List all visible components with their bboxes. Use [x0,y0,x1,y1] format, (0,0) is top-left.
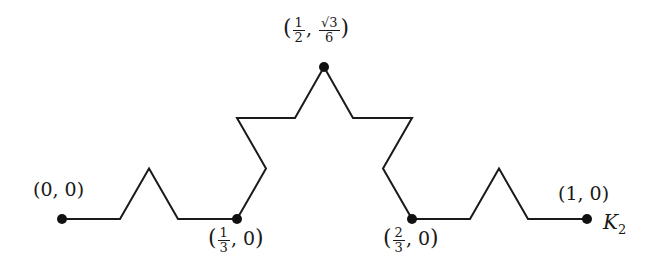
coord-x: 0 [40,178,52,200]
paren-open: ( [208,225,217,250]
curve-label-k2: K2 [603,212,626,236]
paren-close: ) [341,15,350,40]
fraction-x: 23 [393,226,405,254]
paren-close: ) [430,225,439,250]
paren-close: ) [77,178,84,200]
label-point-peak: (12, √36) [283,16,349,44]
coord-y: 0 [590,182,602,204]
koch-curve-diagram: (0, 0) (13, 0) (12, √36) (23, 0) (1, 0) … [0,0,656,268]
point-one-third-0 [232,214,242,224]
coord-y: 0 [65,178,77,200]
numerator: √3 [319,16,340,31]
point-0-0 [57,214,67,224]
label-point-two-thirds-0: (23, 0) [383,226,439,254]
separator: , [231,227,243,249]
label-point-one-third-0: (13, 0) [208,226,264,254]
coord-y: 0 [418,227,430,249]
numerator: 1 [293,16,305,31]
denominator: 2 [293,31,305,45]
numerator: 2 [393,226,405,241]
point-two-thirds-0 [407,214,417,224]
separator: , [306,17,318,39]
paren-open: ( [383,225,392,250]
denominator: 3 [393,241,405,255]
paren-close: ) [255,225,264,250]
label-point-1-0: (1, 0) [558,184,609,203]
denominator: 6 [319,31,340,45]
numerator: 1 [218,226,230,241]
point-1-0 [582,214,592,224]
curve-label-main: K [603,210,618,234]
label-point-0-0: (0, 0) [33,180,84,199]
paren-open: ( [283,15,292,40]
fraction-y: √36 [319,16,340,44]
denominator: 3 [218,241,230,255]
point-half-peak [319,62,329,72]
separator: , [53,178,65,200]
coord-x: 1 [565,182,577,204]
separator: , [578,182,590,204]
fraction-x: 13 [218,226,230,254]
fraction-x: 12 [293,16,305,44]
paren-close: ) [602,182,609,204]
curve-label-subscript: 2 [618,222,626,237]
coord-y: 0 [243,227,255,249]
koch-curve-k2 [62,67,587,219]
separator: , [406,227,418,249]
